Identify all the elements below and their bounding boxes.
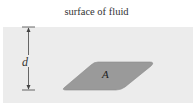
diagram-graphics [0, 0, 193, 112]
depth-label: d [22, 55, 28, 70]
area-label: A [102, 68, 109, 80]
